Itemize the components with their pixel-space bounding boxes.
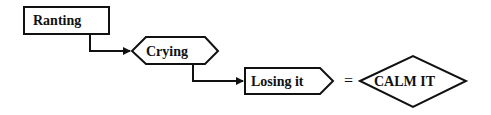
node-crying: Crying <box>132 37 218 64</box>
node-calm-it-label: CALM IT <box>374 74 436 89</box>
node-crying-label: Crying <box>146 44 188 59</box>
node-calm-it: CALM IT <box>360 56 466 107</box>
connector-ranting-crying <box>90 34 130 51</box>
node-ranting-label: Ranting <box>33 13 81 28</box>
connector-crying-losing <box>193 64 243 81</box>
node-ranting: Ranting <box>24 7 109 34</box>
node-losing-it: Losing it <box>245 68 333 94</box>
equals-sign: = <box>344 72 353 89</box>
flow-diagram: Ranting Crying Losing it = CALM IT <box>0 0 491 115</box>
node-losing-it-label: Losing it <box>251 74 304 89</box>
